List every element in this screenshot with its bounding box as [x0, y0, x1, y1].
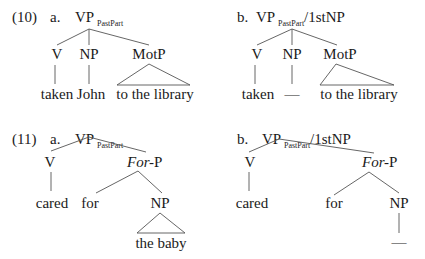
node-np: NP [150, 195, 169, 211]
branch-line [292, 29, 337, 45]
leaf-for: for [81, 195, 99, 211]
leaf-for: for [325, 195, 343, 211]
node-np: NP [79, 46, 98, 62]
item-letter: b. [237, 131, 248, 147]
syntax-tree-diagram: (10) a. VP PastPart V NP MotP taken John… [0, 0, 425, 259]
branch-line [57, 29, 89, 45]
node-motp: MotP [323, 46, 356, 62]
node-np: NP [389, 195, 408, 211]
node-v: V [45, 154, 56, 170]
leaf-cared: cared [236, 195, 269, 211]
item-letter: a. [50, 9, 60, 25]
leaf-john: John [77, 86, 106, 102]
root-node-slash-category: /1stNP [304, 9, 345, 25]
example-number: (10) [12, 9, 37, 26]
branch-line [138, 171, 162, 193]
node-for-p-italic: For [361, 154, 385, 170]
leaf-taken: taken [41, 86, 74, 102]
node-motp: MotP [132, 46, 165, 62]
branch-line [257, 29, 292, 45]
leaf-to-the-library: to the library [320, 86, 398, 102]
example-number: (11) [12, 131, 36, 148]
triangle-constituent [117, 64, 190, 85]
branch-line [89, 29, 149, 45]
node-v: V [52, 46, 63, 62]
root-node-subscript: PastPart [278, 19, 305, 28]
item-letter: b. [237, 9, 248, 25]
branch-line [334, 172, 369, 195]
example-10a-tree: (10) a. VP PastPart V NP MotP taken John… [12, 9, 194, 102]
leaf-gap: — [284, 86, 301, 102]
root-node-label: VP [75, 9, 94, 25]
leaf-cared: cared [36, 195, 69, 211]
item-letter: a. [50, 131, 60, 147]
branch-line [369, 172, 399, 193]
example-10b-tree: b. VP PastPart /1stNP V NP MotP taken — … [237, 9, 398, 102]
example-11a-tree: (11) a. VP PastPart V For -P cared for N… [12, 131, 187, 251]
node-v: V [245, 154, 256, 170]
root-node-subscript: PastPart [97, 19, 124, 28]
triangle-constituent [320, 64, 394, 85]
node-np: NP [282, 46, 301, 62]
node-for-p-suffix: -P [384, 154, 397, 170]
branch-line [96, 171, 138, 193]
leaf-taken: taken [242, 86, 275, 102]
example-11b-tree: b. VP PastPart /1stNP V For -P cared for… [236, 131, 409, 250]
triangle-constituent [137, 213, 185, 233]
root-node-subscript: PastPart [284, 141, 311, 150]
node-for-p-suffix: -P [149, 154, 162, 170]
node-for-p-italic: For [126, 154, 150, 170]
leaf-to-the-library: to the library [116, 86, 194, 102]
root-node-label: VP [256, 9, 275, 25]
leaf-the-baby: the baby [135, 235, 187, 251]
node-v: V [252, 46, 263, 62]
leaf-gap: — [391, 234, 408, 250]
